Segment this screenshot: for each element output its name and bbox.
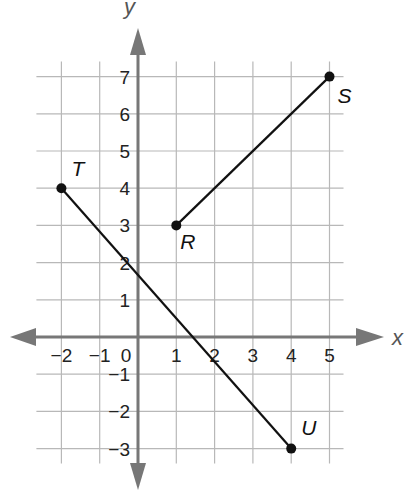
y-axis-arrow-down-icon [130,463,146,490]
x-tick-label: 0 [121,345,132,366]
y-tick-label: 7 [119,67,130,88]
point-label-s: S [338,84,352,107]
y-tick-label: 1 [119,290,130,311]
point-label-r: R [180,230,195,253]
point-label-u: U [301,416,317,439]
point-r [171,220,181,230]
point-u [286,444,296,454]
coordinate-plane: −2−10123457654321−1−2−3 TURS x y [0,0,415,497]
y-axis-arrow-up-icon [130,28,146,55]
y-tick-label: −2 [108,401,130,422]
x-axis-label: x [391,325,404,350]
y-axis-label: y [122,0,137,19]
x-axis-arrow-right-icon [356,328,384,346]
x-tick-label: 3 [248,345,259,366]
y-tick-label: 5 [119,141,130,162]
y-tick-label: 6 [119,104,130,125]
point-t [56,183,66,193]
y-tick-label: 3 [119,215,130,236]
x-tick-label: 5 [324,345,335,366]
y-tick-label: −3 [108,439,130,460]
point-s [325,72,335,82]
point-label-t: T [71,157,86,180]
x-tick-label: −1 [89,345,111,366]
y-tick-label: −1 [108,364,130,385]
x-tick-label: −2 [51,345,73,366]
y-tick-label: 4 [119,178,130,199]
x-tick-label: 1 [171,345,182,366]
grid-lines [36,62,343,464]
x-axis-arrow-left-icon [10,328,36,346]
x-tick-label: 4 [286,345,297,366]
axes [10,28,384,490]
